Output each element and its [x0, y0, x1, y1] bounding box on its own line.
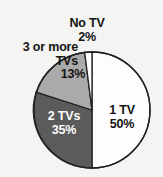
slice-label-one-tv-name: 1 TV — [101, 104, 143, 118]
slice-label-no-tv-name: No TV — [56, 17, 118, 31]
slice-label-one-tv-percent: 50% — [101, 118, 143, 132]
slice-label-three-or-more-tvs-line2: TVs — [2, 55, 78, 69]
pie-chart: No TV 2% 3 or more TVs 13% 2 TVs 35% 1 T… — [0, 0, 163, 177]
slice-label-three-or-more-tvs-line1: 3 or more — [2, 41, 78, 55]
slice-label-two-tvs-percent: 35% — [40, 124, 88, 138]
slice-label-two-tvs-name: 2 TVs — [40, 110, 88, 124]
slice-label-three-or-more-tvs: 3 or more TVs — [2, 41, 78, 68]
slice-percent-three-or-more-tvs: 13% — [56, 68, 90, 82]
slice-label-two-tvs: 2 TVs 35% — [40, 110, 88, 137]
slice-label-one-tv: 1 TV 50% — [101, 104, 143, 131]
